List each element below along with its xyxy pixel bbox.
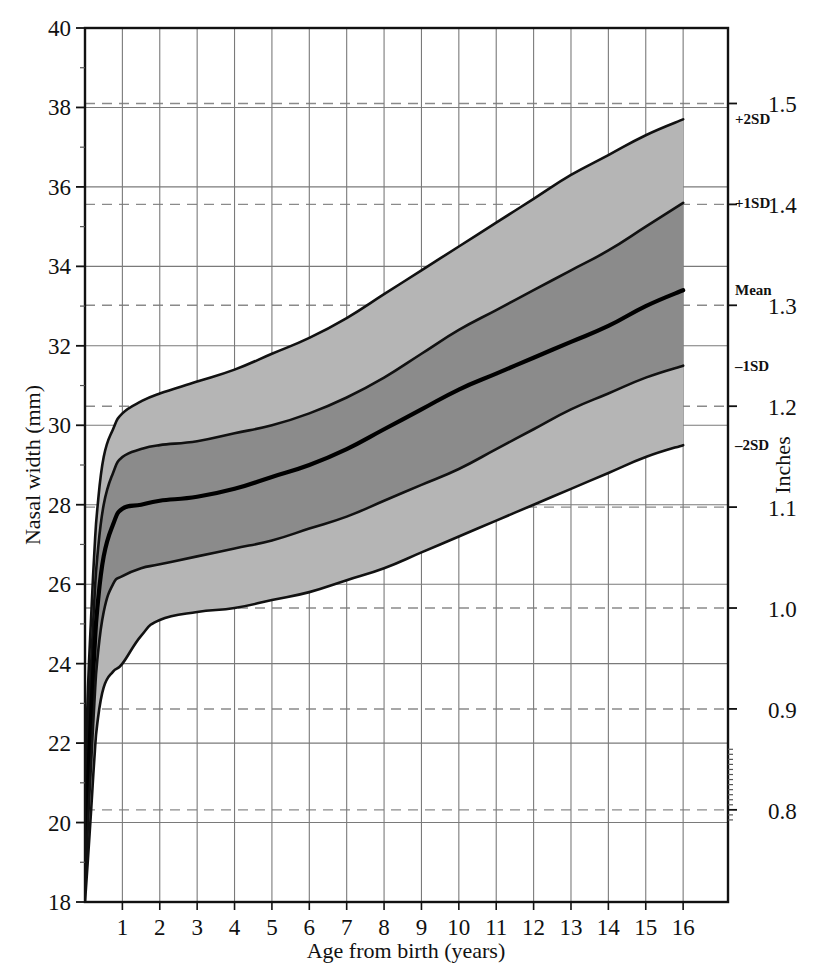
x-tick-label: 8 [378, 915, 390, 940]
x-tick-label: 2 [154, 915, 166, 940]
y-tick-label: 28 [48, 493, 71, 518]
x-tick-label: 12 [522, 915, 545, 940]
y-tick-label: 36 [48, 175, 71, 200]
y-tick-label: 34 [48, 254, 72, 279]
y-tick-label: 32 [48, 334, 71, 359]
x-tick-label: 4 [229, 915, 241, 940]
x-tick-label: 13 [559, 915, 582, 940]
y-tick-right-label: 0.9 [768, 698, 797, 723]
y-axis-right-title: Inches [770, 436, 795, 493]
x-tick-label: 3 [191, 915, 203, 940]
x-tick-label: 6 [304, 915, 316, 940]
y-tick-label: 18 [48, 890, 71, 915]
y-tick-label: 40 [48, 16, 71, 41]
y-tick-label: 30 [48, 413, 71, 438]
y-tick-label: 22 [48, 731, 71, 756]
x-tick-label: 1 [117, 915, 129, 940]
curve-label-2sd: +2SD [735, 111, 770, 127]
curve-label-2sd: –2SD [734, 437, 769, 453]
curve-label-mean: Mean [735, 282, 772, 298]
y-tick-label: 38 [48, 95, 71, 120]
y-tick-right-label: 1.1 [768, 496, 797, 521]
x-tick-label: 11 [485, 915, 507, 940]
y-tick-label: 24 [48, 652, 72, 677]
x-axis-title: Age from birth (years) [307, 938, 506, 963]
x-tick-label: 7 [341, 915, 353, 940]
x-tick-label: 14 [597, 915, 621, 940]
y-tick-right-label: 0.8 [768, 799, 797, 824]
y-axis-title: Nasal width (mm) [20, 385, 45, 545]
x-tick-label: 9 [416, 915, 428, 940]
y-tick-right-label: 1.5 [768, 92, 797, 117]
x-tick-label: 15 [634, 915, 657, 940]
y-tick-label: 26 [48, 572, 71, 597]
nasal-width-growth-chart: 403836343230282624222018 1.51.41.31.21.1… [0, 0, 815, 980]
y-tick-right-label: 1.3 [768, 294, 797, 319]
y-tick-right-label: 1.4 [768, 193, 797, 218]
x-tick-label: 10 [447, 915, 470, 940]
curve-label-1sd: –1SD [734, 358, 769, 374]
x-tick-label: 16 [672, 915, 695, 940]
x-tick-label: 5 [266, 915, 278, 940]
chart-canvas: 403836343230282624222018 1.51.41.31.21.1… [0, 0, 815, 980]
y-tick-right-label: 1.0 [768, 597, 797, 622]
curve-label-1sd: +1SD [735, 195, 770, 211]
y-tick-right-label: 1.2 [768, 395, 797, 420]
y-tick-label: 20 [48, 811, 71, 836]
